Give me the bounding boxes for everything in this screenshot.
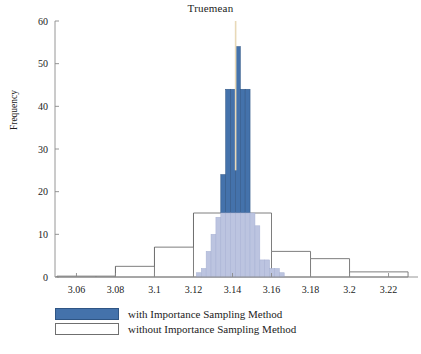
legend-label: without Importance Sampling Method bbox=[128, 323, 296, 335]
x-tick-label: 3.14 bbox=[224, 284, 242, 295]
plot-area: 3.063.083.13.123.143.163.183.23.22 01020… bbox=[0, 0, 421, 300]
y-tick-label: 30 bbox=[38, 144, 48, 155]
chart-canvas: 3.063.083.13.123.143.163.183.23.22 01020… bbox=[0, 0, 421, 300]
y-tick-label: 50 bbox=[38, 58, 48, 69]
legend: with Importance Sampling Method without … bbox=[55, 307, 296, 336]
y-tick-label: 40 bbox=[38, 101, 48, 112]
y-tick-label: 0 bbox=[43, 272, 48, 283]
y-axis-ticks: 0102030405060 bbox=[38, 16, 59, 283]
x-tick-label: 3.18 bbox=[302, 284, 320, 295]
y-tick-label: 10 bbox=[38, 229, 48, 240]
legend-swatch-filled bbox=[55, 308, 119, 320]
legend-swatch-hollow bbox=[55, 323, 119, 335]
legend-item[interactable]: without Importance Sampling Method bbox=[55, 322, 296, 336]
x-tick-label: 3.08 bbox=[107, 284, 125, 295]
x-tick-label: 3.22 bbox=[380, 284, 398, 295]
x-tick-label: 3.1 bbox=[148, 284, 161, 295]
x-tick-label: 3.06 bbox=[68, 284, 86, 295]
legend-label: with Importance Sampling Method bbox=[128, 308, 282, 320]
y-tick-label: 60 bbox=[38, 16, 48, 27]
y-tick-label: 20 bbox=[38, 186, 48, 197]
histogram-figure: Truemean Frequency 3.063.083.13.123.143.… bbox=[0, 0, 421, 354]
x-tick-label: 3.2 bbox=[343, 284, 356, 295]
x-tick-label: 3.12 bbox=[185, 284, 203, 295]
legend-item[interactable]: with Importance Sampling Method bbox=[55, 307, 296, 321]
x-tick-label: 3.16 bbox=[263, 284, 281, 295]
